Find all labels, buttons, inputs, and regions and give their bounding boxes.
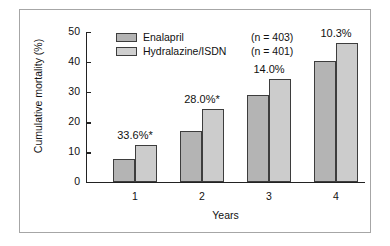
y-axis-tick-label: 0	[40, 175, 80, 187]
y-axis-tick	[86, 92, 91, 93]
legend-swatch-enalapril	[116, 33, 137, 42]
chart-legend: Enalapril (n = 403) Hydralazine/ISDN (n …	[116, 30, 293, 58]
legend-label-hydralazine-isdn: Hydralazine/ISDN	[143, 45, 251, 57]
bar-enalapril-year-3	[247, 95, 269, 182]
legend-label-enalapril: Enalapril	[143, 31, 251, 43]
y-axis-tick	[86, 62, 91, 63]
bar-hydralazine-year-4	[336, 43, 358, 182]
annotation-year-4: 10.3%	[296, 27, 376, 39]
x-axis-tick-label: 4	[316, 190, 356, 202]
chart-figure-frame: Cumulative mortality (%) 50 40 30 20 10 …	[19, 9, 371, 233]
bar-hydralazine-year-2	[202, 109, 224, 182]
y-axis-tick	[86, 122, 91, 123]
y-axis-tick	[86, 32, 91, 33]
bar-enalapril-year-4	[314, 61, 336, 182]
bar-hydralazine-year-3	[269, 79, 291, 182]
bar-enalapril-year-1	[113, 159, 135, 182]
legend-n-hydralazine-isdn: (n = 401)	[251, 45, 293, 57]
bar-hydralazine-year-1	[135, 145, 157, 182]
y-axis-tick-label: 50	[40, 25, 80, 37]
y-axis-tick-label: 40	[40, 55, 80, 67]
y-axis-tick-label: 30	[40, 85, 80, 97]
annotation-year-2: 28.0%*	[162, 93, 242, 105]
y-axis-tick-label: 20	[40, 115, 80, 127]
plot-area: Cumulative mortality (%) 50 40 30 20 10 …	[20, 10, 372, 234]
x-axis-tick-label: 3	[249, 190, 289, 202]
annotation-year-1: 33.6%*	[95, 129, 175, 141]
y-axis-line	[86, 32, 87, 183]
legend-item-hydralazine-isdn: Hydralazine/ISDN (n = 401)	[116, 44, 293, 58]
x-axis-line	[86, 182, 365, 183]
y-axis-tick-label: 10	[40, 145, 80, 157]
x-axis-label: Years	[86, 209, 365, 221]
legend-item-enalapril: Enalapril (n = 403)	[116, 30, 293, 44]
x-axis-tick-label: 1	[115, 190, 155, 202]
legend-n-enalapril: (n = 403)	[251, 31, 293, 43]
y-axis-tick	[86, 152, 91, 153]
legend-swatch-hydralazine-isdn	[116, 47, 137, 56]
bar-enalapril-year-2	[180, 131, 202, 182]
annotation-year-3: 14.0%	[229, 63, 309, 75]
x-axis-tick-label: 2	[182, 190, 222, 202]
